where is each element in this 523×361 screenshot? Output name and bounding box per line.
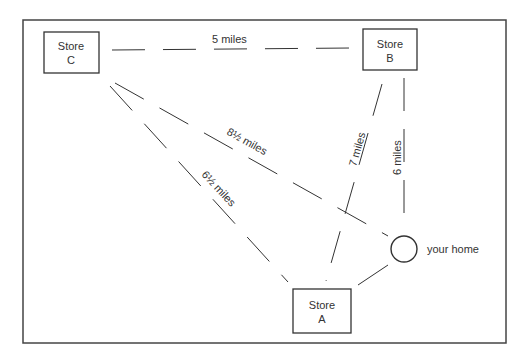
edge-c-home-label: 8½ miles bbox=[225, 125, 270, 157]
store-c-label-line2: C bbox=[67, 54, 75, 66]
store-b-label-line2: B bbox=[386, 52, 393, 64]
edge-a-home bbox=[358, 265, 388, 285]
edge-c-b-label: 5 miles bbox=[212, 33, 247, 45]
home-label: your home bbox=[427, 243, 479, 255]
edge-c-b bbox=[112, 48, 352, 50]
store-distance-diagram: Store C Store B Store A your home 5 mile… bbox=[0, 0, 523, 361]
edge-c-a-label: 6½ miles bbox=[200, 168, 239, 209]
store-a-label-line1: Store bbox=[309, 299, 335, 311]
store-b-label-line1: Store bbox=[377, 38, 403, 50]
edge-c-a bbox=[110, 86, 288, 282]
store-a-node: Store A bbox=[293, 289, 351, 333]
store-b-node: Store B bbox=[363, 29, 417, 70]
store-a-label-line2: A bbox=[318, 313, 326, 325]
home-node: your home bbox=[391, 236, 479, 262]
edge-b-a bbox=[326, 84, 382, 281]
store-c-label-line1: Store bbox=[58, 40, 84, 52]
store-c-node: Store C bbox=[44, 32, 99, 73]
edge-b-home-label: 6 miles bbox=[391, 140, 403, 175]
home-circle-icon bbox=[391, 236, 417, 262]
edge-b-a-label: 7 miles bbox=[346, 130, 367, 167]
